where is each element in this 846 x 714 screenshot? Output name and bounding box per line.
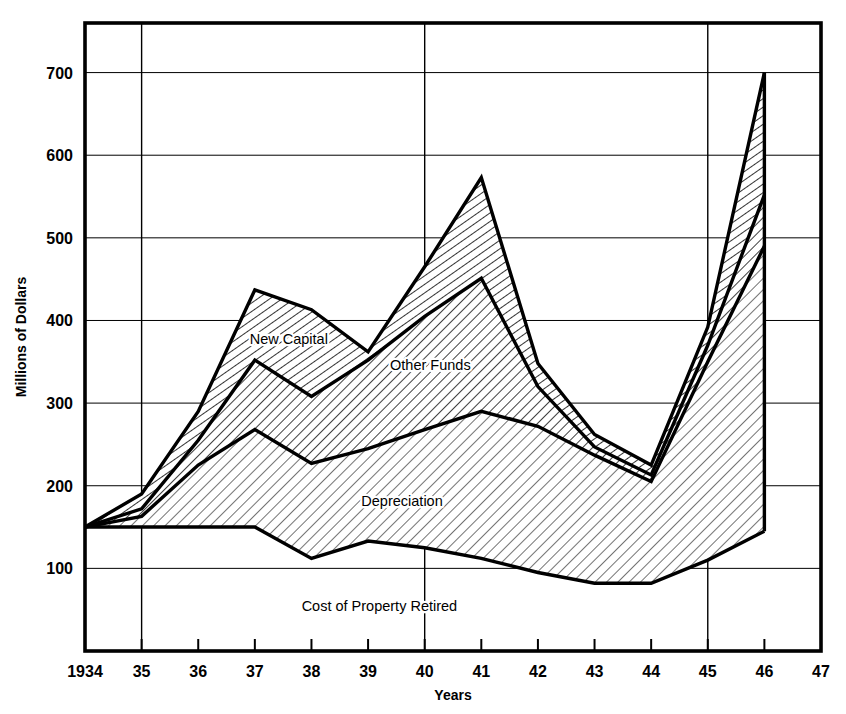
xtick-label-1937: 37 xyxy=(246,663,264,680)
annotation-new-capital: New Capital xyxy=(250,331,328,347)
ytick-label-400: 400 xyxy=(46,312,73,329)
chart-container: 193435363738394041424344454647 100200300… xyxy=(0,0,846,714)
xtick-label-1945: 45 xyxy=(699,663,717,680)
xtick-label-1942: 42 xyxy=(529,663,547,680)
xtick-label-1934: 1934 xyxy=(67,663,103,680)
xtick-label-1939: 39 xyxy=(359,663,377,680)
xtick-label-1940: 40 xyxy=(416,663,434,680)
ytick-label-700: 700 xyxy=(46,65,73,82)
xtick-label-1947: 47 xyxy=(812,663,830,680)
ytick-label-500: 500 xyxy=(46,230,73,247)
annotation-cost-of-property-retired: Cost of Property Retired xyxy=(302,598,458,614)
y-axis-tick-labels: 100200300400500600700 xyxy=(46,65,73,578)
xtick-label-1938: 38 xyxy=(303,663,321,680)
ytick-label-200: 200 xyxy=(46,478,73,495)
annotation-other-funds: Other Funds xyxy=(390,357,471,373)
ytick-label-300: 300 xyxy=(46,395,73,412)
ytick-label-600: 600 xyxy=(46,147,73,164)
y-axis-title: Millions of Dollars xyxy=(13,277,29,398)
xtick-label-1941: 41 xyxy=(472,663,490,680)
x-axis-tick-labels: 193435363738394041424344454647 xyxy=(67,663,830,680)
xtick-label-1943: 43 xyxy=(586,663,604,680)
annotation-depreciation: Depreciation xyxy=(361,493,442,509)
xtick-label-1935: 35 xyxy=(133,663,151,680)
xtick-label-1946: 46 xyxy=(755,663,773,680)
xtick-label-1944: 44 xyxy=(642,663,660,680)
x-axis-title: Years xyxy=(434,687,472,703)
financing-sources-area-chart: 193435363738394041424344454647 100200300… xyxy=(0,0,846,714)
ytick-label-100: 100 xyxy=(46,560,73,577)
xtick-label-1936: 36 xyxy=(189,663,207,680)
